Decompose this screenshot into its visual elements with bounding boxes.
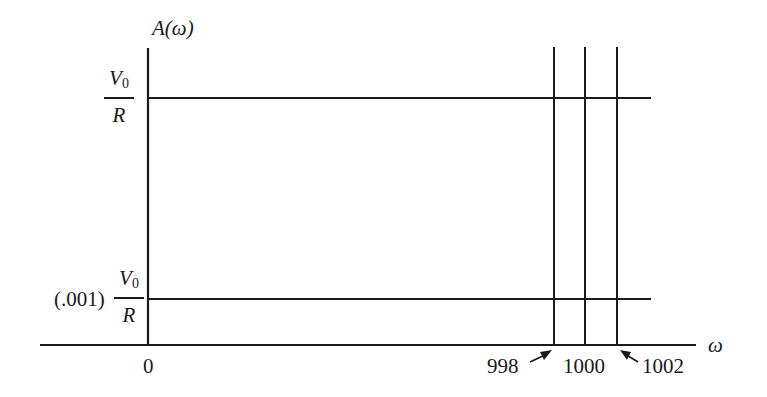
level-prefix-low: (.001) — [54, 289, 105, 310]
tick-label-1000: 1000 — [563, 356, 605, 377]
diagram-canvas — [0, 0, 767, 397]
tick-label-998: 998 — [487, 356, 519, 377]
y-axis-label: A(ω) — [152, 18, 194, 39]
arrow-1002-head — [620, 350, 631, 360]
tick-label-origin: 0 — [143, 356, 154, 377]
level-label-low: V0 R — [114, 268, 144, 326]
x-axis-label: ω — [708, 335, 723, 356]
fraction-bar — [114, 297, 144, 299]
tick-label-1002: 1002 — [642, 356, 684, 377]
level-label-high: V0 R — [104, 68, 134, 126]
arrow-998-head — [540, 350, 552, 360]
fraction-bar — [104, 97, 134, 99]
numerator: V — [109, 66, 122, 90]
denominator: R — [123, 305, 136, 326]
numerator: V — [119, 266, 132, 290]
denominator: R — [113, 105, 126, 126]
